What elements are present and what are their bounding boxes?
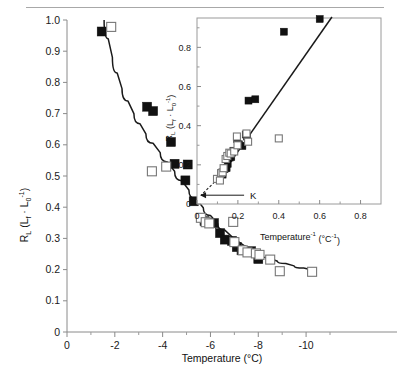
inset-filled-marker <box>316 16 323 23</box>
main-y-axis-title: RL (Lf · L0-1) <box>18 188 32 243</box>
main-open-marker <box>205 219 214 228</box>
main-y-tick-label: 0.2 <box>45 263 60 275</box>
inset-x-tick-label: 0.6 <box>313 211 326 221</box>
main-open-marker <box>107 22 116 31</box>
main-filled-marker <box>97 27 106 36</box>
main-y-tick-label: 0.4 <box>45 201 60 213</box>
main-x-tick-label: -6 <box>206 339 215 351</box>
inset-open-marker <box>243 130 250 137</box>
main-y-tick-label: 0.3 <box>45 232 60 244</box>
main-filled-marker <box>149 107 158 116</box>
figure-panel: 00.10.20.30.40.50.60.70.80.91.00-2-4-6-8… <box>0 0 397 387</box>
main-x-tick-label: 0 <box>64 339 70 351</box>
main-x-tick-label: -8 <box>254 339 263 351</box>
inset-x-tick-label: 0.2 <box>232 211 245 221</box>
inset-open-marker <box>220 165 227 172</box>
inset-y-tick-label: 0 <box>186 199 191 209</box>
main-y-tick-label: 0.7 <box>45 107 60 119</box>
inset-y-tick-label: 0.8 <box>178 43 191 53</box>
inset-y-tick-label: 0.2 <box>178 160 191 170</box>
inset-y-axis-title: RL (Lf · L0-1) <box>164 95 177 142</box>
main-x-tick-label: -10 <box>298 339 313 351</box>
main-y-tick-label: 0 <box>54 326 60 338</box>
inset-open-marker <box>216 177 223 184</box>
main-open-marker <box>147 167 156 176</box>
inset-open-marker <box>234 142 241 149</box>
main-open-marker <box>230 238 239 247</box>
main-y-tick-label: 0.6 <box>45 138 60 150</box>
main-open-marker <box>243 248 252 257</box>
inset-y-tick-label: 0.4 <box>178 121 191 131</box>
inset-open-marker <box>245 138 252 145</box>
main-y-tick-label: 0.1 <box>45 294 60 306</box>
main-filled-marker <box>181 176 190 185</box>
main-y-tick-label: 1.0 <box>45 14 60 26</box>
inset-filled-marker <box>252 96 259 103</box>
main-x-tick-label: -4 <box>158 339 167 351</box>
inset-x-tick-label: 0 <box>194 211 199 221</box>
main-open-marker <box>255 250 264 259</box>
inset-y-tick-label: 0.6 <box>178 82 191 92</box>
inset-x-tick-label: 0.8 <box>354 211 367 221</box>
inset-x-tick-label: 0.4 <box>273 211 286 221</box>
main-open-marker <box>162 162 171 171</box>
inset-filled-marker <box>245 97 252 104</box>
chart-canvas: 00.10.20.30.40.50.60.70.80.91.00-2-4-6-8… <box>0 0 397 387</box>
inset-x-axis-title: Temperature-1 (°C-1) <box>260 231 340 246</box>
inset-filled-marker <box>280 28 287 35</box>
inset-open-marker <box>275 135 282 142</box>
main-open-marker <box>308 267 317 276</box>
inset-k-label: K <box>250 190 257 201</box>
main-open-marker <box>266 255 275 264</box>
main-y-tick-label: 0.5 <box>45 170 60 182</box>
main-open-marker <box>275 267 284 276</box>
main-y-tick-label: 0.8 <box>45 76 60 88</box>
main-y-tick-label: 0.9 <box>45 45 60 57</box>
main-x-tick-label: -2 <box>110 339 119 351</box>
inset-open-marker <box>233 133 240 140</box>
